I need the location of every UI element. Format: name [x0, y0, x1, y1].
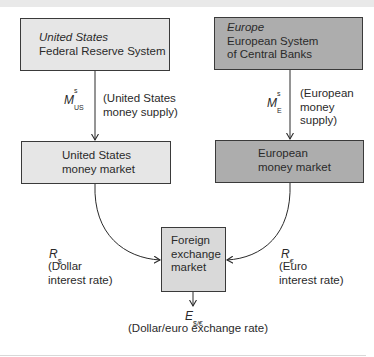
eu-money-market-line1: European: [258, 147, 331, 161]
escb-name-line1: European System: [227, 35, 318, 49]
foreign-exchange-market-box: Foreign exchange market: [161, 227, 226, 292]
us-money-supply-desc: (United States money supply): [103, 92, 178, 119]
dollar-rate-desc: (Dollar interest rate): [48, 260, 113, 287]
european-money-market-box: European money market: [215, 140, 364, 183]
eu-money-market-line2: money market: [258, 161, 331, 175]
exchange-rate-desc: (Dollar/euro exchange rate): [128, 322, 268, 336]
fed-name-label: Federal Reserve System: [39, 45, 166, 59]
us-money-market-box: United States money market: [21, 141, 171, 184]
dollar-rate-arrow: [95, 184, 160, 260]
fx-line2: exchange: [171, 248, 221, 262]
euro-rate-desc: (Euro interest rate): [279, 260, 344, 287]
bottom-rule: [0, 355, 366, 356]
eu-money-supply-desc: (European money supply): [300, 87, 354, 128]
us-money-supply-symbol: MsUS: [64, 93, 84, 108]
us-federal-reserve-box: United States Federal Reserve System: [20, 18, 170, 71]
escb-name-line2: of Central Banks: [227, 48, 318, 62]
fx-line1: Foreign: [171, 234, 221, 248]
fx-line3: market: [171, 261, 221, 275]
us-region-label: United States: [39, 31, 166, 45]
eu-money-supply-symbol: MsE: [267, 96, 282, 111]
european-central-banks-box: Europe European System of Central Banks: [214, 17, 363, 70]
us-money-market-line1: United States: [62, 149, 135, 163]
us-money-market-line2: money market: [62, 163, 135, 177]
europe-region-label: Europe: [227, 21, 318, 35]
